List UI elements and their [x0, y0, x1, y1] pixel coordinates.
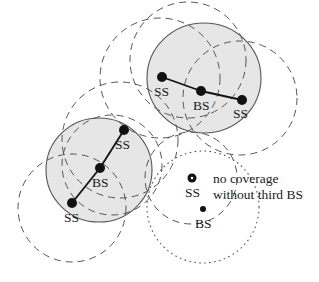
base-station-node-icon — [95, 163, 105, 173]
annotation: no coverage without third BS — [213, 171, 303, 202]
subscriber-station-node-icon — [237, 95, 247, 105]
subscriber-station-node-icon — [157, 72, 167, 82]
annotation-line-1: no coverage — [213, 171, 279, 186]
left-ss-top-label: SS — [115, 137, 130, 152]
isolated-bs-label: BS — [195, 216, 212, 231]
isolated-group: SS BS — [185, 174, 212, 232]
top-ss-left-label: SS — [154, 84, 169, 99]
network-coverage-diagram: SSBSSSSSBSSS SS BS no coverage without t… — [0, 0, 319, 282]
annotation-line-2: without third BS — [213, 187, 303, 202]
isolated-ss-label: SS — [185, 185, 200, 200]
isolated-bs-node-icon — [200, 206, 206, 212]
base-station-node-icon — [196, 86, 206, 96]
isolated-ss-center-icon — [191, 177, 194, 180]
left-ss-bottom-label: SS — [64, 210, 79, 225]
top-ss-right-label: SS — [233, 106, 248, 121]
top-bs-label: BS — [193, 98, 210, 113]
coverage-dashed-circles — [18, 2, 297, 262]
left-bs-label: BS — [92, 175, 109, 190]
subscriber-station-node-icon — [67, 198, 77, 208]
subscriber-station-node-icon — [119, 125, 129, 135]
